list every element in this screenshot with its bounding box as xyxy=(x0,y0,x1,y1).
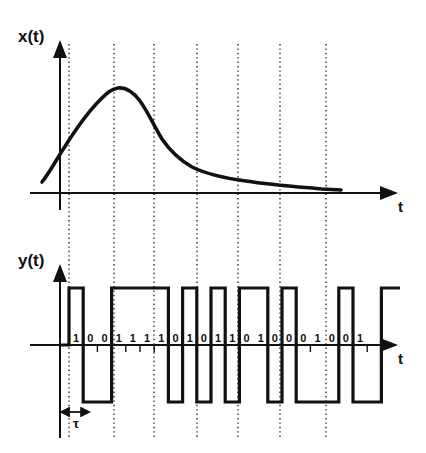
tau-marker: τ xyxy=(70,412,82,431)
top-plot-x-label: t xyxy=(398,198,403,215)
bit-label: 0 xyxy=(329,332,335,344)
bit-label: 0 xyxy=(201,332,207,344)
bit-label: 0 xyxy=(87,332,93,344)
bit-label: 1 xyxy=(130,332,136,344)
bottom-plot-x-label: t xyxy=(398,350,403,367)
bit-label: 1 xyxy=(215,332,221,344)
bit-label: 1 xyxy=(258,332,264,344)
bit-label: 0 xyxy=(272,332,278,344)
bit-label: 0 xyxy=(286,332,292,344)
analog-signal-curve xyxy=(42,88,341,190)
bit-label: 1 xyxy=(314,332,320,344)
bit-label: 1 xyxy=(73,332,79,344)
top-plot-y-label: x(t) xyxy=(18,27,44,46)
bit-label: 1 xyxy=(158,332,164,344)
bit-label: 1 xyxy=(357,332,363,344)
top-plot: x(t) t xyxy=(18,27,403,215)
bit-label: 0 xyxy=(172,332,178,344)
bit-label: 1 xyxy=(187,332,193,344)
bit-label: 0 xyxy=(101,332,107,344)
bit-label: 0 xyxy=(300,332,306,344)
bottom-plot-y-label: y(t) xyxy=(18,251,44,270)
bit-label: 1 xyxy=(144,332,150,344)
bit-label: 0 xyxy=(343,332,349,344)
bit-label: 0 xyxy=(243,332,249,344)
bit-label-row: 1 0 0 1 1 1 1 0 1 0 1 1 0 1 0 0 0 1 0 0 xyxy=(73,332,363,344)
bit-label: 1 xyxy=(229,332,235,344)
tau-symbol-label: τ xyxy=(73,416,80,431)
signal-diagram: x(t) t xyxy=(0,0,426,453)
bit-label: 1 xyxy=(116,332,122,344)
bottom-plot: 1 0 0 1 1 1 1 0 1 0 1 1 0 1 0 0 0 1 0 0 xyxy=(18,251,403,438)
